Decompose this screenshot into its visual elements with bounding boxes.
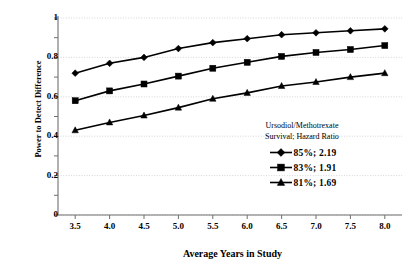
- x-tick-label: 8.0: [370, 222, 400, 231]
- legend-item: 83%; 1.91: [222, 160, 382, 175]
- legend-triangle-icon: [268, 176, 294, 189]
- legend-item: 81%; 1.69: [222, 175, 382, 190]
- x-tick-label: 6.5: [267, 222, 297, 231]
- x-tick-label: 5.0: [163, 222, 193, 231]
- legend: Ursodiol/Methotrexate Survival; Hazard R…: [222, 120, 382, 190]
- legend-title-line-1: Ursodiol/Methotrexate: [222, 120, 382, 131]
- legend-title-line-2: Survival; Hazard Ratio: [222, 131, 382, 142]
- x-tick-label: 4.0: [95, 222, 125, 231]
- x-tick-label: 7.5: [335, 222, 365, 231]
- legend-item-label: 85%; 2.19: [294, 148, 337, 158]
- legend-item-label: 83%; 1.91: [294, 163, 337, 173]
- legend-item-label: 81%; 1.69: [294, 178, 337, 188]
- x-axis-title: Average Years in Study: [55, 248, 410, 259]
- x-tick-label: 3.5: [60, 222, 90, 231]
- x-tick-label: 5.5: [198, 222, 228, 231]
- x-tick-label: 4.5: [129, 222, 159, 231]
- power-curve-chart: Power to Detect Difference 1 0.8 0.6 0.4…: [0, 0, 410, 277]
- legend-item: 85%; 2.19: [222, 145, 382, 160]
- legend-square-icon: [268, 161, 294, 174]
- legend-diamond-icon: [268, 146, 294, 159]
- x-tick-label: 7.0: [301, 222, 331, 231]
- legend-entries: 85%; 2.1983%; 1.9181%; 1.69: [222, 145, 382, 190]
- x-tick-label: 6.0: [232, 222, 262, 231]
